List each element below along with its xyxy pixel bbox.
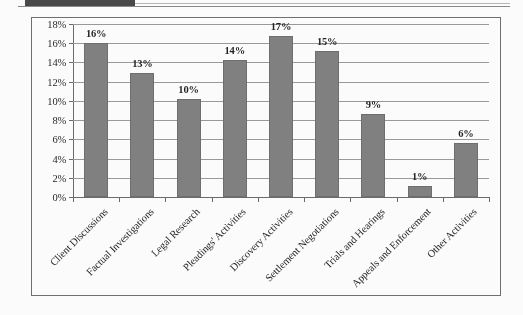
bar[interactable]: [130, 73, 154, 197]
x-axis-tick: [304, 197, 305, 202]
x-axis-label: Other Activities: [425, 206, 479, 260]
bar-slot: 13%: [119, 24, 165, 197]
x-axis-tick: [258, 197, 259, 202]
bar-value-label: 6%: [458, 128, 473, 139]
y-axis-label: 16%: [47, 38, 66, 49]
x-axis-tick: [489, 197, 490, 202]
bar[interactable]: [408, 186, 432, 197]
bar[interactable]: [269, 36, 293, 197]
x-axis-tick: [350, 197, 351, 202]
y-axis-label: 6%: [52, 134, 66, 145]
bar-value-label: 13%: [132, 58, 152, 69]
bar-value-label: 1%: [412, 171, 427, 182]
plot-area: 0%2%4%6%8%10%12%14%16%18% 16%13%10%14%17…: [73, 24, 489, 197]
bar[interactable]: [84, 43, 108, 197]
y-axis-label: 0%: [52, 192, 66, 203]
bar-value-label: 14%: [225, 45, 245, 56]
x-axis-tick: [119, 197, 120, 202]
bar-value-label: 17%: [271, 21, 291, 32]
x-axis-tick: [443, 197, 444, 202]
bar-slot: 15%: [304, 24, 350, 197]
bar-slot: 1%: [397, 24, 443, 197]
x-axis-line: [73, 197, 489, 198]
x-axis-tick: [397, 197, 398, 202]
y-axis-label: 10%: [47, 95, 66, 106]
y-axis-label: 2%: [52, 172, 66, 183]
bar-value-label: 15%: [317, 36, 337, 47]
y-axis-label: 14%: [47, 57, 66, 68]
x-axis-tick: [165, 197, 166, 202]
x-axis-tick: [73, 197, 74, 202]
bar-slot: 6%: [443, 24, 489, 197]
x-axis-tick: [212, 197, 213, 202]
bar[interactable]: [361, 114, 385, 197]
horizontal-rule-secondary: [135, 3, 510, 4]
y-axis-label: 18%: [47, 19, 66, 30]
bar[interactable]: [454, 143, 478, 197]
bar-value-label: 9%: [366, 99, 381, 110]
bar-slot: 17%: [258, 24, 304, 197]
x-axis-label: Appeals and Enforcement: [350, 206, 433, 289]
y-axis-label: 12%: [47, 76, 66, 87]
bar-value-label: 10%: [178, 84, 198, 95]
bar-slot: 14%: [212, 24, 258, 197]
bar[interactable]: [177, 99, 201, 197]
y-axis-label: 8%: [52, 115, 66, 126]
bar-slot: 16%: [73, 24, 119, 197]
horizontal-rule: [18, 6, 510, 7]
y-axis-label: 4%: [52, 153, 66, 164]
chart-frame: 0%2%4%6%8%10%12%14%16%18% 16%13%10%14%17…: [31, 17, 501, 296]
bar-value-label: 16%: [86, 28, 106, 39]
bar-slot: 9%: [350, 24, 396, 197]
bar[interactable]: [223, 60, 247, 197]
scan-artifact-band: [0, 0, 523, 14]
bar-slot: 10%: [165, 24, 211, 197]
bar[interactable]: [315, 51, 339, 197]
